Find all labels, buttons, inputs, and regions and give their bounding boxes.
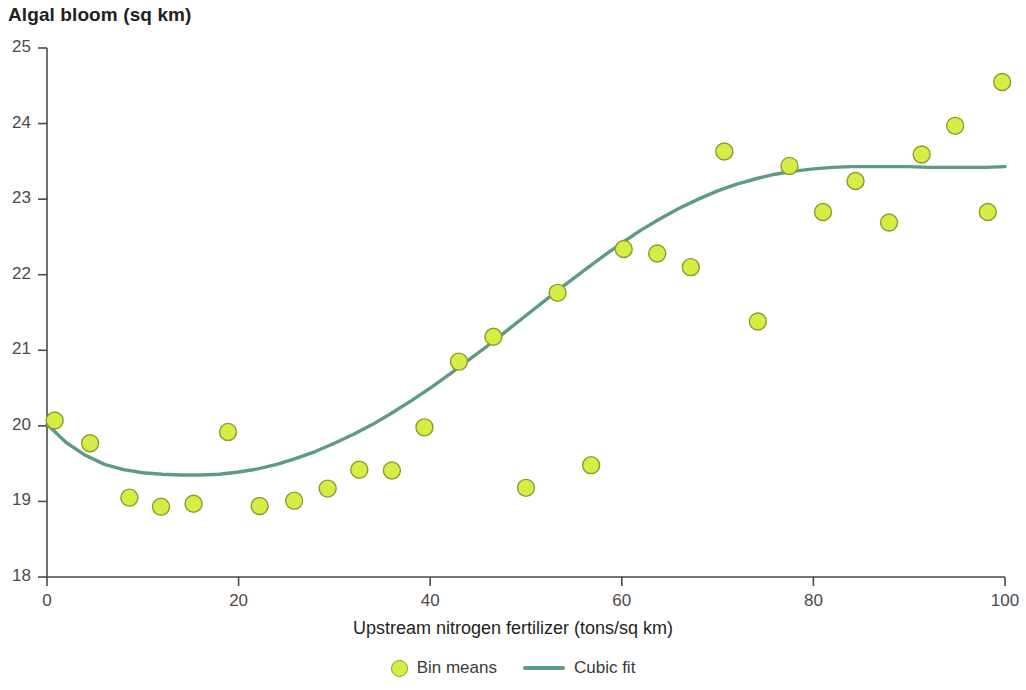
data-point-marker: [319, 480, 336, 497]
chart-figure: Algal bloom (sq km) 1819202122232425 020…: [0, 0, 1026, 690]
data-point-marker: [583, 457, 600, 474]
data-point-marker: [979, 203, 996, 220]
data-point-marker: [121, 489, 138, 506]
bin-means-points: [46, 74, 1010, 516]
data-point-marker: [485, 328, 502, 345]
data-point-marker: [351, 461, 368, 478]
y-axis-tick-label: 19: [0, 490, 31, 510]
data-point-marker: [153, 498, 170, 515]
data-point-marker: [46, 412, 63, 429]
x-axis-tick-label: 80: [773, 591, 853, 611]
data-point-marker: [947, 117, 964, 134]
data-point-marker: [913, 146, 930, 163]
y-axis-tick-label: 25: [0, 37, 31, 57]
data-point-marker: [220, 423, 237, 440]
data-point-marker: [994, 74, 1011, 91]
legend-item-cubic-fit: Cubic fit: [523, 658, 635, 678]
y-axis-tick-label: 20: [0, 415, 31, 435]
chart-legend: Bin means Cubic fit: [0, 658, 1026, 678]
x-axis-tick-label: 40: [390, 591, 470, 611]
data-point-marker: [749, 313, 766, 330]
legend-item-bin-means: Bin means: [391, 658, 497, 678]
y-axis-tick-label: 24: [0, 113, 31, 133]
y-axis-tick-label: 23: [0, 188, 31, 208]
data-point-marker: [549, 284, 566, 301]
x-axis-tick-label: 0: [7, 591, 87, 611]
cubic-fit-path: [47, 167, 1005, 475]
data-point-marker: [649, 245, 666, 262]
data-point-marker: [518, 479, 535, 496]
y-axis-tick-label: 21: [0, 339, 31, 359]
x-axis-tick-label: 100: [965, 591, 1026, 611]
x-axis-tick-label: 20: [199, 591, 279, 611]
x-axis-tick-label: 60: [582, 591, 662, 611]
data-point-marker: [251, 497, 268, 514]
data-point-marker: [82, 435, 99, 452]
x-axis-label: Upstream nitrogen fertilizer (tons/sq km…: [0, 618, 1026, 639]
data-point-marker: [881, 214, 898, 231]
data-point-marker: [450, 353, 467, 370]
plot-area: [0, 0, 1026, 690]
data-point-marker: [615, 241, 632, 258]
legend-label-cubic-fit: Cubic fit: [574, 658, 635, 678]
data-point-marker: [185, 495, 202, 512]
data-point-marker: [416, 419, 433, 436]
data-point-marker: [286, 492, 303, 509]
data-point-marker: [781, 157, 798, 174]
data-point-marker: [814, 203, 831, 220]
data-point-marker: [716, 143, 733, 160]
cubic-fit-line: [47, 167, 1005, 475]
y-axis-tick-label: 22: [0, 264, 31, 284]
legend-label-bin-means: Bin means: [417, 658, 497, 678]
data-point-marker: [383, 462, 400, 479]
legend-line-marker-icon: [523, 666, 565, 670]
legend-circle-marker-icon: [391, 660, 408, 677]
y-axis-tick-label: 18: [0, 566, 31, 586]
data-point-marker: [682, 259, 699, 276]
data-point-marker: [847, 173, 864, 190]
